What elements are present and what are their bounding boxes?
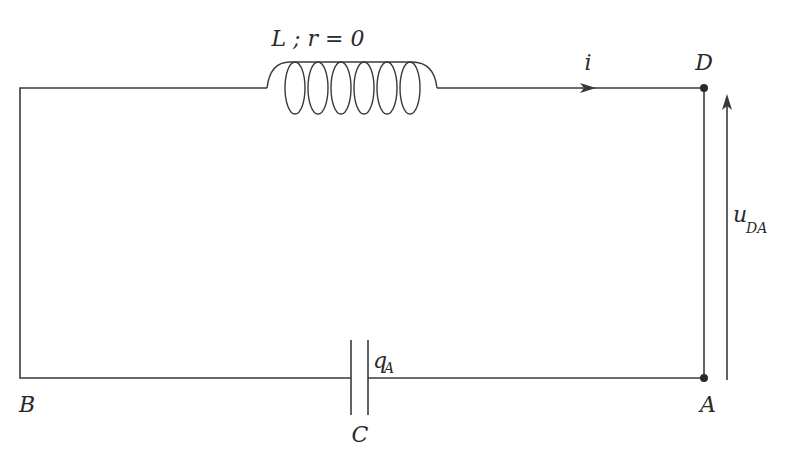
voltage-subscript: DA	[745, 220, 767, 236]
lc-circuit-diagram: L ; r = 0 i D A B C q A u DA	[0, 0, 790, 456]
node-A-label: A	[698, 392, 716, 417]
charge-subscript: A	[382, 360, 394, 376]
inductor-label: L ; r = 0	[271, 26, 365, 51]
current-label: i	[584, 50, 591, 75]
node-D-label: D	[694, 50, 713, 75]
inductor-coil-icon	[267, 62, 437, 114]
wire-top-left	[20, 88, 351, 378]
capacitor-label: C	[352, 422, 369, 447]
node-A-dot	[700, 374, 708, 382]
node-D-dot	[700, 84, 708, 92]
node-B-label: B	[18, 392, 35, 417]
